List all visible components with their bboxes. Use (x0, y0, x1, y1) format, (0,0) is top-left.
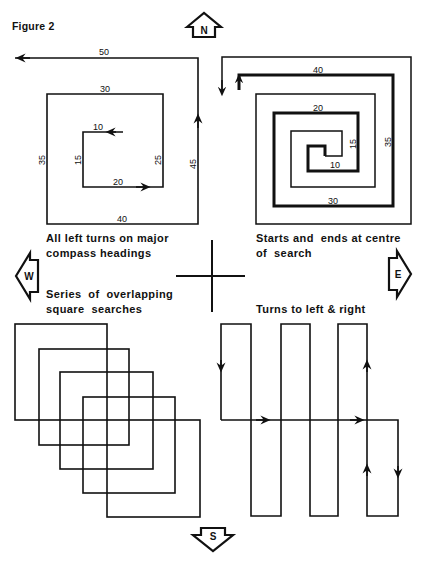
expanding-square-caption: All left turns on major compass headings (46, 231, 169, 261)
center-cross (176, 240, 245, 312)
svg-text:15: 15 (348, 139, 358, 149)
expanding-square-pattern (15, 58, 198, 224)
overlapping-squares-pattern (15, 324, 200, 517)
svg-text:40: 40 (313, 65, 323, 75)
spiral-square-caption: Starts and ends at centre of search (256, 231, 401, 261)
svg-text:10: 10 (93, 122, 103, 132)
svg-text:10: 10 (330, 160, 340, 170)
caption-line: of search (256, 247, 312, 259)
caption-line: square searches (46, 303, 142, 315)
south-compass-icon: S (193, 528, 233, 551)
spiral-square-leg-labels: 10 15 20 30 35 40 (313, 65, 393, 206)
svg-text:45: 45 (188, 159, 198, 169)
east-label: E (395, 269, 402, 280)
south-label: S (210, 531, 217, 542)
svg-text:25: 25 (153, 155, 163, 165)
search-patterns-diagram: N W E S 10 15 20 25 30 35 40 45 50 (0, 0, 425, 561)
svg-text:50: 50 (99, 47, 109, 57)
svg-text:30: 30 (328, 196, 338, 206)
west-label: W (24, 271, 34, 282)
west-compass-icon: W (16, 253, 38, 299)
svg-text:35: 35 (383, 137, 393, 147)
svg-text:15: 15 (73, 155, 83, 165)
svg-text:20: 20 (313, 103, 323, 113)
expanding-square-leg-labels: 10 15 20 25 30 35 40 45 50 (37, 47, 198, 224)
caption-line: Turns to left & right (256, 303, 366, 315)
caption-line: All left turns on major (46, 232, 169, 244)
caption-line: Series of overlapping (46, 288, 173, 300)
creeping-line-caption: Turns to left & right (256, 302, 366, 317)
svg-text:20: 20 (113, 177, 123, 187)
north-compass-icon: N (187, 13, 221, 37)
north-label: N (200, 25, 207, 36)
caption-line: Starts and ends at centre (256, 232, 401, 244)
svg-text:30: 30 (100, 84, 110, 94)
overlapping-squares-caption: Series of overlapping square searches (46, 287, 173, 317)
caption-line: compass headings (46, 247, 151, 259)
svg-text:40: 40 (117, 214, 127, 224)
svg-text:35: 35 (37, 155, 47, 165)
creeping-line-pattern (221, 324, 398, 516)
